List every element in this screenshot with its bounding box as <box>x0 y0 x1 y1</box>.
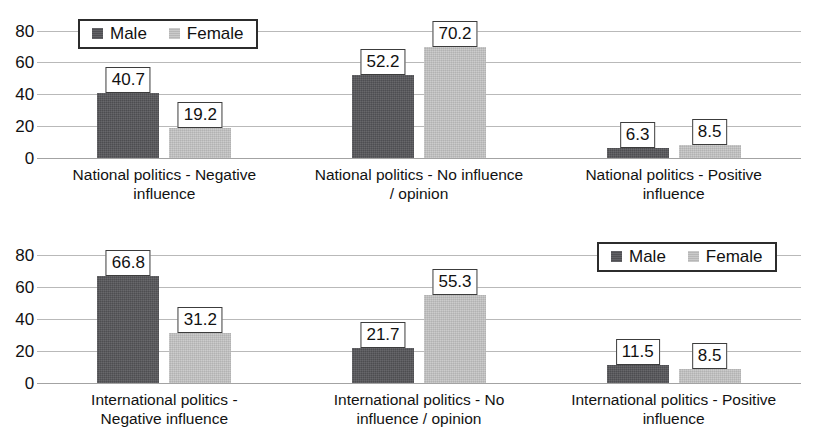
legend-label-male: Male <box>629 248 666 265</box>
bar-groups-bottom: 66.8 31.2 21.7 <box>37 255 801 383</box>
bar-group-international-negative: 66.8 31.2 <box>37 255 292 383</box>
y-tick-60: 60 <box>15 54 34 71</box>
bar-slot-female: 70.2 <box>424 31 486 158</box>
value-label-male: 21.7 <box>360 322 405 348</box>
value-label-female: 8.5 <box>692 343 728 369</box>
bar-female[interactable] <box>169 333 231 383</box>
y-tick-20: 20 <box>15 118 34 135</box>
y-tick-80: 80 <box>15 23 34 40</box>
category-label-national-negative: National politics - Negative influence <box>37 166 292 203</box>
cat-line-2: influence <box>643 185 705 202</box>
bar-male[interactable] <box>352 75 414 158</box>
legend-swatch-female-icon <box>688 251 699 262</box>
chart-international-politics: 80 60 40 20 0 66.8 <box>0 222 813 447</box>
y-tick-0: 0 <box>25 150 34 167</box>
legend-top: Male Female <box>78 19 258 49</box>
bar-slot-female: 8.5 <box>679 31 741 158</box>
cat-line-2: influence <box>133 185 195 202</box>
y-tick-40: 40 <box>15 311 34 328</box>
plot-area-bottom: 66.8 31.2 21.7 <box>37 255 801 383</box>
cat-line-2: influence / opinion <box>357 410 482 427</box>
plot-area-top: 40.7 19.2 52.2 <box>37 31 801 158</box>
bar-group-national-negative: 40.7 19.2 <box>37 31 292 158</box>
y-tick-0: 0 <box>25 375 34 392</box>
bar-male[interactable] <box>97 93 159 158</box>
bar-female[interactable] <box>424 295 486 384</box>
bar-slot-male: 6.3 <box>607 31 669 158</box>
category-label-international-positive: International politics - Positive influe… <box>546 391 801 428</box>
bar-slot-male: 66.8 <box>97 255 159 383</box>
bar-female[interactable] <box>169 128 231 159</box>
chart-national-politics: 80 60 40 20 0 40.7 <box>0 0 813 222</box>
legend-item-female[interactable]: Female <box>688 248 763 265</box>
y-tick-40: 40 <box>15 86 34 103</box>
bar-slot-male: 21.7 <box>352 255 414 383</box>
category-label-national-positive: National politics - Positive influence <box>546 166 801 203</box>
cat-line-1: International politics - <box>91 391 237 408</box>
category-labels-top: National politics - Negative influence N… <box>37 166 801 203</box>
legend-item-female[interactable]: Female <box>169 25 244 42</box>
y-axis-top: 80 60 40 20 0 <box>0 0 34 162</box>
bar-slot-female: 8.5 <box>679 255 741 383</box>
value-label-male: 66.8 <box>106 250 151 276</box>
bar-group-national-no-influence: 52.2 70.2 <box>292 31 547 158</box>
legend-item-male[interactable]: Male <box>611 248 666 265</box>
legend-bottom: Male Female <box>597 242 777 272</box>
bar-male[interactable] <box>352 348 414 383</box>
category-label-national-no-influence: National politics - No influence / opini… <box>292 166 547 203</box>
value-label-male: 11.5 <box>616 339 660 365</box>
bar-male[interactable] <box>607 148 669 158</box>
bar-slot-male: 52.2 <box>352 31 414 158</box>
cat-line-2: Negative influence <box>101 410 229 427</box>
category-label-international-no-influence: International politics - No influence / … <box>292 391 547 428</box>
bar-slot-male: 40.7 <box>97 31 159 158</box>
legend-swatch-male-icon <box>92 28 103 39</box>
y-tick-80: 80 <box>15 247 34 264</box>
bar-groups-top: 40.7 19.2 52.2 <box>37 31 801 158</box>
legend-swatch-female-icon <box>169 28 180 39</box>
bar-group-international-positive: 11.5 8.5 <box>546 255 801 383</box>
legend-label-female: Female <box>187 25 244 42</box>
cat-line-1: International politics - No <box>334 391 505 408</box>
category-label-international-negative: International politics - Negative influe… <box>37 391 292 428</box>
bar-slot-female: 55.3 <box>424 255 486 383</box>
bar-slot-female: 19.2 <box>169 31 231 158</box>
value-label-female: 19.2 <box>178 102 223 128</box>
value-label-male: 6.3 <box>620 122 656 148</box>
bar-female[interactable] <box>424 47 486 159</box>
cat-line-2: influence <box>643 410 705 427</box>
value-label-female: 31.2 <box>178 307 223 333</box>
plot-wrapper-bottom: 80 60 40 20 0 66.8 <box>0 222 813 447</box>
cat-line-1: National politics - Positive <box>585 166 762 183</box>
cat-line-1: National politics - No influence <box>315 166 524 183</box>
bar-slot-male: 11.5 <box>607 255 669 383</box>
gridline-0 <box>37 158 801 159</box>
bar-group-national-positive: 6.3 8.5 <box>546 31 801 158</box>
value-label-female: 55.3 <box>432 269 477 295</box>
cat-line-1: National politics - Negative <box>73 166 257 183</box>
value-label-female: 8.5 <box>692 119 728 145</box>
cat-line-2: / opinion <box>390 185 449 202</box>
legend-label-female: Female <box>706 248 763 265</box>
y-tick-60: 60 <box>15 279 34 296</box>
cat-line-1: International politics - Positive <box>571 391 776 408</box>
legend-label-male: Male <box>110 25 147 42</box>
gridline-0 <box>37 383 801 384</box>
bar-female[interactable] <box>679 369 741 383</box>
plot-wrapper-top: 80 60 40 20 0 40.7 <box>0 0 813 222</box>
category-labels-bottom: International politics - Negative influe… <box>37 391 801 428</box>
legend-swatch-male-icon <box>611 251 622 262</box>
bar-female[interactable] <box>679 145 741 159</box>
y-tick-20: 20 <box>15 343 34 360</box>
value-label-female: 70.2 <box>432 21 477 47</box>
bar-male[interactable] <box>97 276 159 383</box>
legend-item-male[interactable]: Male <box>92 25 147 42</box>
value-label-male: 52.2 <box>360 49 405 75</box>
y-axis-bottom: 80 60 40 20 0 <box>0 222 34 387</box>
bar-group-international-no-influence: 21.7 55.3 <box>292 255 547 383</box>
bar-male[interactable] <box>607 365 669 383</box>
bar-slot-female: 31.2 <box>169 255 231 383</box>
value-label-male: 40.7 <box>106 67 151 93</box>
